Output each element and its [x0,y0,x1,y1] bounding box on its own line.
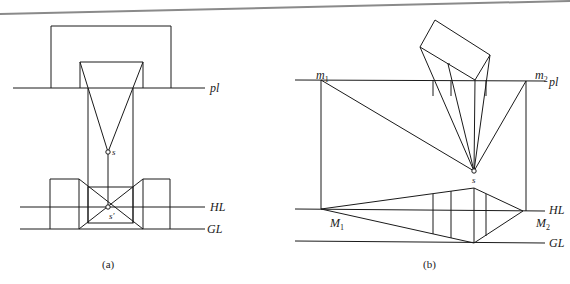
label-gl-a: GL [207,223,222,235]
label-s-b: s [472,176,476,185]
caption-a: (a) [102,259,114,270]
sight-line-right [108,62,143,152]
station-point-prime [106,205,110,209]
label-s-prime: s′ [109,212,114,221]
label-M1-text: M [330,216,340,230]
figure-b [295,20,545,243]
label-s-a: s [112,148,116,157]
plan-outer-rect [51,26,171,88]
elevation-right-box [143,179,170,229]
measuring-line-m2 [474,81,526,171]
label-M1-sub: 1 [340,223,344,232]
horizon-line-b [295,209,545,211]
label-M2-sub: 2 [546,223,550,232]
label-hl-a: HL [210,201,225,213]
perspective-diagram [0,0,570,284]
label-m1-text: m [316,68,325,82]
label-m2-sub: 2 [544,75,548,84]
station-point-b [472,169,476,173]
perspective-diamond [321,188,523,243]
label-pl-a: pl [210,82,219,94]
caption-b: (b) [423,259,436,270]
plan-inner-rect [80,62,143,88]
label-hl-b: HL [549,204,564,216]
label-m1: m1 [316,69,329,84]
top-rule [0,1,570,14]
sight-line-b1 [420,47,474,171]
label-m2: m2 [535,69,548,84]
sight-line-b2 [448,64,474,171]
sight-line-left [80,62,108,152]
station-point-a [106,150,110,154]
sight-line-b3 [474,80,475,171]
ground-line-b [295,241,545,243]
label-pl-b: pl [549,76,558,88]
sight-line-b4 [474,55,490,171]
picture-plane-line-b [295,80,545,81]
figure-a [13,26,205,229]
label-M1: M1 [330,217,344,232]
elevation-left-box [50,179,79,229]
label-gl-b: GL [549,237,564,249]
label-M2-text: M [536,216,546,230]
label-M2: M2 [536,217,550,232]
label-m1-sub: 1 [325,75,329,84]
label-m2-text: m [535,68,544,82]
